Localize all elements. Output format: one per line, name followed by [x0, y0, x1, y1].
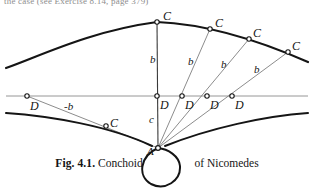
label-A-pole: A [147, 146, 154, 157]
label-D-0: D [30, 100, 39, 112]
label-C-lower: C [110, 117, 118, 129]
ray-2 [158, 29, 210, 148]
label-D-3: D [210, 99, 219, 111]
label-D-2: D [185, 99, 194, 111]
point-C-lower [104, 124, 108, 128]
label-b-1: b [188, 56, 194, 67]
point-D-2 [180, 94, 184, 98]
label-D-1: D [160, 99, 169, 111]
lower-branch-curve-right [165, 113, 308, 146]
label-b-2: b [221, 59, 227, 70]
label-C-0: C [163, 10, 171, 22]
label-C-3: C [292, 40, 300, 52]
figure-caption: Fig. 4.1. Conchoid of Nicomedes [0, 157, 314, 169]
label-b-3: b [254, 64, 260, 75]
point-C-3 [286, 50, 290, 54]
caption-title-right: of Nicomedes [195, 157, 259, 169]
point-C-0 [155, 20, 159, 24]
ray-center [157, 22, 158, 148]
label-negative-b: -b [64, 101, 73, 112]
point-D-1 [155, 94, 159, 98]
label-D-4: D [235, 99, 244, 111]
point-A-pole [156, 146, 161, 151]
point-D-0 [25, 94, 29, 98]
caption-figure-number: Fig. 4.1. [55, 157, 95, 169]
point-D-3 [205, 94, 209, 98]
point-D-4 [230, 94, 234, 98]
caption-title-left: Conchoid [98, 157, 143, 169]
label-C-1: C [215, 17, 223, 29]
label-c: c [149, 114, 154, 125]
label-b-0: b [150, 54, 156, 65]
point-C-2 [247, 37, 251, 41]
point-C-1 [208, 27, 212, 31]
label-C-2: C [253, 27, 261, 39]
lower-branch-curve [6, 113, 152, 146]
point-markers-C [104, 20, 290, 128]
